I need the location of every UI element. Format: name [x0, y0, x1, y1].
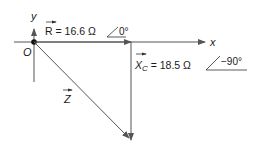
origin-label: O	[23, 46, 32, 58]
r-label: R = 16.6 Ω	[45, 25, 96, 37]
xc-angle: −90°	[221, 56, 242, 67]
z-label: Z	[63, 93, 72, 105]
xc-label: XC = 18.5 Ω	[134, 59, 191, 73]
z-phasor	[34, 42, 129, 138]
phasor-diagram: x y O R = 16.6 Ω 0° XC = 18.5 Ω −90° Z	[0, 0, 257, 151]
y-axis-label: y	[30, 10, 38, 22]
r-angle: 0°	[119, 26, 129, 37]
x-axis-label: x	[209, 36, 216, 48]
